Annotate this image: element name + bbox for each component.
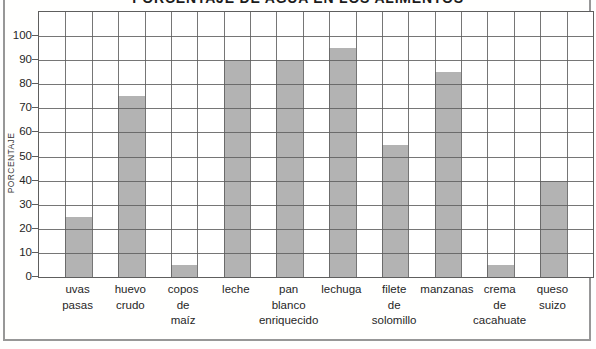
y-tick-label-40: 40	[6, 174, 32, 186]
y-tick-label-10: 10	[6, 246, 32, 258]
bar-huevo-crudo	[118, 96, 144, 277]
gridline-vertical	[408, 12, 409, 277]
bar-filete-de-solomillo	[382, 145, 408, 278]
gridline-horizontal	[39, 205, 593, 206]
gridline-vertical	[145, 12, 146, 277]
gridline-vertical	[276, 12, 277, 277]
gridline-vertical	[435, 12, 436, 277]
gridline-vertical	[250, 12, 251, 277]
bar-pan-blanco-enriquecido	[276, 60, 302, 277]
x-label-queso-suizo: queso suizo	[508, 282, 596, 313]
y-tick-mark	[32, 35, 39, 36]
bar-manzanas	[435, 72, 461, 277]
bar-leche	[224, 60, 250, 277]
bar-lechuga	[329, 48, 355, 277]
gridline-vertical	[356, 12, 357, 277]
y-tick-label-0: 0	[6, 270, 32, 282]
y-tick-mark	[32, 107, 39, 108]
gridline-horizontal	[39, 181, 593, 182]
y-tick-mark	[32, 204, 39, 205]
gridline-vertical	[118, 12, 119, 277]
gridline-vertical	[461, 12, 462, 277]
gridline-horizontal	[39, 253, 593, 254]
y-tick-mark	[32, 276, 39, 277]
bar-copos-de-maíz	[171, 265, 197, 277]
gridline-vertical	[197, 12, 198, 277]
gridline-vertical	[567, 12, 568, 277]
gridline-vertical	[224, 12, 225, 277]
y-tick-mark	[32, 83, 39, 84]
y-tick-mark	[32, 252, 39, 253]
gridline-vertical	[65, 12, 66, 277]
gridline-vertical	[540, 12, 541, 277]
gridline-horizontal	[39, 36, 593, 37]
y-tick-label-30: 30	[6, 198, 32, 210]
gridline-horizontal	[39, 157, 593, 158]
gridline-vertical	[92, 12, 93, 277]
gridline-vertical	[329, 12, 330, 277]
y-tick-label-50: 50	[6, 150, 32, 162]
y-tick-mark	[32, 180, 39, 181]
y-tick-label-80: 80	[6, 77, 32, 89]
bar-crema-de-cacahuate	[487, 265, 513, 277]
chart-title: PORCENTAJE DE AGUA EN LOS ALIMENTOS	[0, 0, 596, 6]
y-tick-mark	[32, 131, 39, 132]
y-tick-mark	[32, 156, 39, 157]
y-tick-label-20: 20	[6, 222, 32, 234]
gridline-horizontal	[39, 132, 593, 133]
y-tick-label-100: 100	[6, 29, 32, 41]
chart-figure: PORCENTAJE DE AGUA EN LOS ALIMENTOS PORC…	[0, 0, 596, 349]
gridline-vertical	[382, 12, 383, 277]
plot-area	[38, 11, 594, 278]
y-tick-label-60: 60	[6, 125, 32, 137]
gridline-horizontal	[39, 229, 593, 230]
y-tick-mark	[32, 228, 39, 229]
gridline-vertical	[487, 12, 488, 277]
gridline-horizontal	[39, 60, 593, 61]
gridline-horizontal	[39, 84, 593, 85]
gridline-vertical	[514, 12, 515, 277]
y-tick-label-70: 70	[6, 101, 32, 113]
bar-uvas-pasas	[65, 217, 91, 277]
gridline-vertical	[303, 12, 304, 277]
y-tick-label-90: 90	[6, 53, 32, 65]
gridline-vertical	[171, 12, 172, 277]
gridline-horizontal	[39, 108, 593, 109]
y-tick-mark	[32, 59, 39, 60]
y-axis-title: PORCENTAJE	[6, 128, 16, 198]
